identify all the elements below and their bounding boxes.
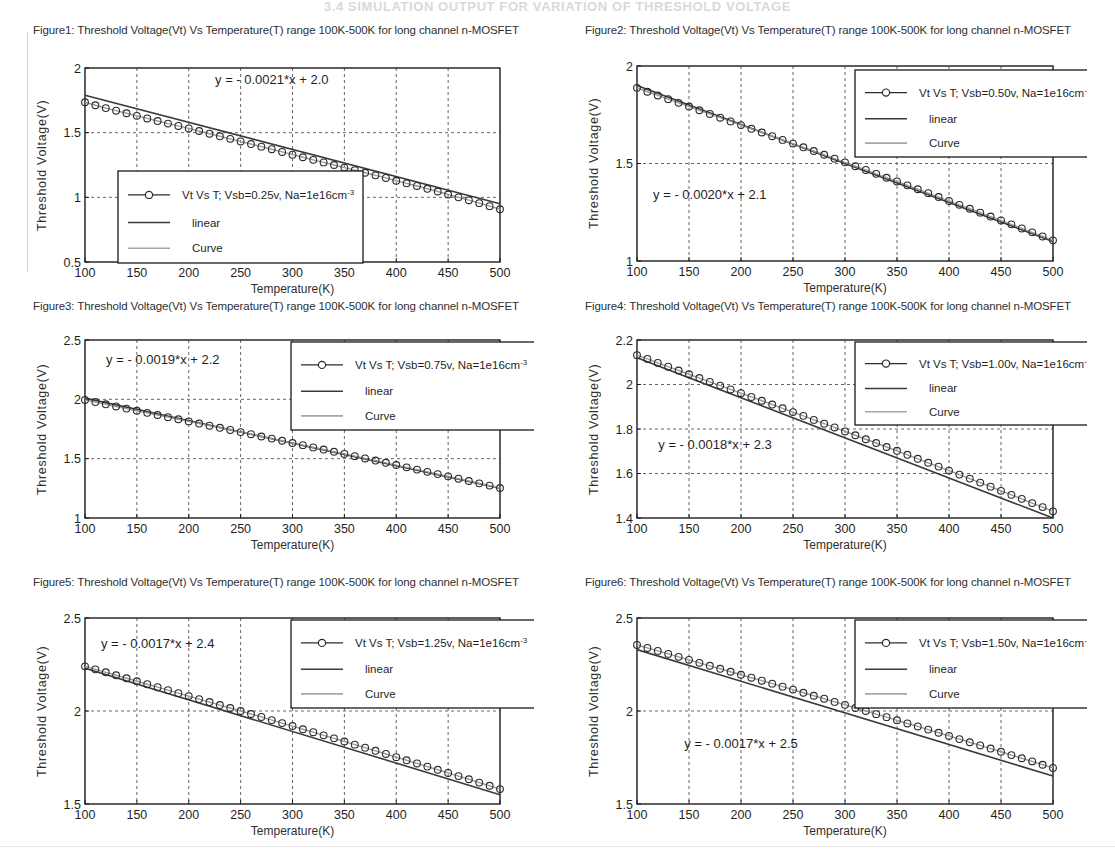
chart-legend: Vt Vs T; Vsb=0.50v, Na=1e16cm-3linearCur… (855, 70, 1087, 157)
svg-text:450: 450 (438, 522, 459, 536)
figure-title: Figure4: Threshold Voltage(Vt) Vs Temper… (585, 300, 1087, 313)
svg-text:350: 350 (887, 522, 908, 536)
y-axis-label: Threshold Voltage(V) (35, 340, 49, 518)
svg-text:1.8: 1.8 (616, 423, 633, 437)
svg-text:150: 150 (679, 522, 700, 536)
x-axis-label: Temperature(K) (637, 538, 1053, 552)
page-bottom-rule (0, 846, 1115, 847)
svg-text:250: 250 (783, 265, 804, 279)
svg-text:450: 450 (438, 808, 459, 822)
svg-text:500: 500 (490, 808, 511, 822)
chart-canvas-6: 1001502002503003504004505001.522.5y = - … (585, 589, 1087, 844)
legend-label-linear: linear (929, 663, 957, 675)
figure-2: Figure2: Threshold Voltage(Vt) Vs Temper… (585, 24, 1087, 301)
equation-annotation: y = - 0.0020*x + 2.1 (653, 187, 766, 202)
x-axis-label: Temperature(K) (85, 538, 500, 552)
svg-text:2.5: 2.5 (64, 612, 81, 626)
chart-legend: Vt Vs T; Vsb=1.50v, Na=1e16cm-3linearCur… (855, 620, 1087, 708)
svg-text:250: 250 (783, 808, 804, 822)
chart-legend: Vt Vs T; Vsb=0.75v, Na=1e16cm-3linearCur… (291, 342, 534, 430)
svg-text:1.5: 1.5 (64, 126, 81, 140)
legend-label-series: Vt Vs T; Vsb=0.75v, Na=1e16cm-3 (355, 358, 528, 371)
legend-label-linear: linear (365, 663, 393, 675)
svg-text:150: 150 (679, 808, 700, 822)
figure-title: Figure6: Threshold Voltage(Vt) Vs Temper… (585, 576, 1087, 589)
plot-area-wrapper: 10015020025030035040045050011.52y = - 0.… (585, 37, 1087, 301)
equation-annotation: y = - 0.0019*x + 2.2 (106, 352, 219, 367)
plot-area-wrapper: 10015020025030035040045050011.522.5y = -… (33, 313, 534, 558)
equation-annotation: y = - 0.0017*x + 2.5 (684, 736, 797, 751)
svg-text:1.4: 1.4 (616, 512, 633, 526)
legend-label-series: Vt Vs T; Vsb=1.00v, Na=1e16cm-3 (919, 357, 1087, 370)
chart-legend: Vt Vs T; Vsb=1.25v, Na=1e16cm-3linearCur… (291, 620, 534, 708)
svg-text:1: 1 (74, 512, 81, 526)
figure-title: Figure3: Threshold Voltage(Vt) Vs Temper… (33, 300, 534, 313)
legend-label-curve: Curve (929, 688, 960, 700)
plot-area-wrapper: 1001502002503003504004505000.511.52y = -… (33, 37, 534, 302)
legend-label-curve: Curve (929, 137, 960, 149)
equation-annotation: y = - 0.0017*x + 2.4 (101, 636, 214, 651)
legend-label-linear: linear (929, 382, 957, 394)
legend-label-linear: linear (929, 113, 957, 125)
svg-text:350: 350 (887, 265, 908, 279)
svg-text:250: 250 (230, 266, 251, 280)
chart-canvas-1: 1001502002503003504004505000.511.52y = -… (33, 37, 534, 302)
svg-text:500: 500 (1043, 265, 1064, 279)
svg-text:400: 400 (386, 522, 407, 536)
svg-text:1.5: 1.5 (616, 157, 633, 171)
svg-text:250: 250 (230, 522, 251, 536)
x-axis-label: Temperature(K) (85, 282, 500, 296)
svg-text:500: 500 (490, 522, 511, 536)
svg-text:2.5: 2.5 (616, 612, 633, 626)
figure-title: Figure5: Threshold Voltage(Vt) Vs Temper… (33, 576, 534, 589)
svg-text:350: 350 (334, 266, 355, 280)
svg-text:150: 150 (126, 522, 147, 536)
y-axis-label: Threshold Voltage(V) (35, 68, 49, 262)
page-left-rule (27, 32, 28, 272)
plot-area-wrapper: 1001502002503003504004505001.522.5y = - … (33, 589, 534, 844)
plot-area-wrapper: 1001502002503003504004505001.522.5y = - … (585, 589, 1087, 844)
equation-annotation: y = - 0.0018*x + 2.3 (658, 437, 771, 452)
figure-6: Figure6: Threshold Voltage(Vt) Vs Temper… (585, 576, 1087, 844)
legend-label-curve: Curve (929, 406, 960, 418)
svg-text:2: 2 (74, 705, 81, 719)
figure-title: Figure1: Threshold Voltage(Vt) Vs Temper… (33, 24, 534, 37)
svg-text:450: 450 (438, 266, 459, 280)
svg-text:400: 400 (939, 265, 960, 279)
figure-1: Figure1: Threshold Voltage(Vt) Vs Temper… (33, 24, 534, 302)
svg-text:300: 300 (282, 522, 303, 536)
svg-text:400: 400 (386, 808, 407, 822)
svg-text:200: 200 (731, 265, 752, 279)
figure-4: Figure4: Threshold Voltage(Vt) Vs Temper… (585, 300, 1087, 558)
svg-text:300: 300 (282, 808, 303, 822)
svg-text:1.5: 1.5 (64, 798, 81, 812)
svg-text:150: 150 (679, 265, 700, 279)
svg-text:2: 2 (626, 378, 633, 392)
chart-canvas-4: 1001502002503003504004505001.41.61.822.2… (585, 313, 1087, 558)
svg-text:1: 1 (74, 191, 81, 205)
page-section-heading: 3.4 SIMULATION OUTPUT FOR VARIATION OF T… (0, 0, 1115, 14)
svg-text:200: 200 (178, 522, 199, 536)
svg-text:2.2: 2.2 (616, 334, 633, 348)
y-axis-label: Threshold Voltage(V) (587, 66, 601, 261)
svg-text:150: 150 (126, 266, 147, 280)
svg-text:150: 150 (126, 808, 147, 822)
legend-label-curve: Curve (365, 410, 396, 422)
svg-text:300: 300 (835, 522, 856, 536)
x-axis-label: Temperature(K) (85, 824, 500, 838)
svg-text:1.5: 1.5 (616, 798, 633, 812)
equation-annotation: y = - 0.0021*x + 2.0 (215, 72, 328, 87)
chart-canvas-3: 10015020025030035040045050011.522.5y = -… (33, 313, 534, 558)
svg-text:1: 1 (626, 255, 633, 269)
legend-label-linear: linear (365, 385, 393, 397)
svg-text:250: 250 (230, 808, 251, 822)
svg-text:500: 500 (490, 266, 511, 280)
svg-text:450: 450 (991, 808, 1012, 822)
svg-text:200: 200 (178, 808, 199, 822)
svg-text:300: 300 (282, 266, 303, 280)
svg-text:400: 400 (939, 808, 960, 822)
svg-text:2: 2 (626, 705, 633, 719)
chart-canvas-2: 10015020025030035040045050011.52y = - 0.… (585, 37, 1087, 301)
plot-area-wrapper: 1001502002503003504004505001.41.61.822.2… (585, 313, 1087, 558)
chart-legend: Vt Vs T; Vsb=1.00v, Na=1e16cm-3linearCur… (855, 342, 1087, 425)
